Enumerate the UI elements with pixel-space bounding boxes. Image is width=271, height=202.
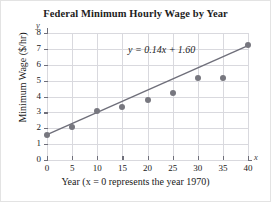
data-point bbox=[145, 97, 151, 103]
y-tick-label: 3 bbox=[29, 106, 41, 116]
y-tick bbox=[44, 128, 48, 129]
trendline-equation-label: y = 0.14x + 1.60 bbox=[128, 44, 195, 55]
y-tick-label: 7 bbox=[29, 43, 41, 53]
y-tick bbox=[44, 144, 48, 145]
y-tick-label: 4 bbox=[29, 91, 41, 101]
x-tick-label: 20 bbox=[138, 163, 158, 173]
chart-figure: Federal Minimum Hourly Wage by Year y x … bbox=[0, 0, 271, 202]
x-tick bbox=[148, 156, 149, 160]
data-point bbox=[69, 124, 75, 130]
y-axis-label: Minimum Wage ($/hr) bbox=[17, 18, 28, 138]
x-tick-label: 10 bbox=[87, 163, 107, 173]
x-tick-label: 0 bbox=[37, 163, 57, 173]
y-tick bbox=[44, 97, 48, 98]
x-tick bbox=[72, 156, 73, 160]
x-tick bbox=[198, 156, 199, 160]
data-point bbox=[245, 42, 251, 48]
y-tick bbox=[44, 81, 48, 82]
y-tick-label: 8 bbox=[29, 27, 41, 37]
x-tick bbox=[173, 156, 174, 160]
chart-title: Federal Minimum Hourly Wage by Year bbox=[0, 8, 271, 19]
gridline-vertical bbox=[248, 33, 249, 160]
x-axis-variable-name: x bbox=[254, 152, 258, 162]
y-tick bbox=[44, 33, 48, 34]
x-tick-label: 35 bbox=[213, 163, 233, 173]
x-tick bbox=[223, 156, 224, 160]
data-point bbox=[170, 90, 176, 96]
x-tick-label: 25 bbox=[163, 163, 183, 173]
x-tick bbox=[248, 156, 249, 160]
x-tick-label: 15 bbox=[112, 163, 132, 173]
x-axis-label: Year (x = 0 represents the year 1970) bbox=[0, 176, 271, 187]
x-tick bbox=[97, 156, 98, 160]
x-tick-label: 30 bbox=[188, 163, 208, 173]
y-tick-label: 5 bbox=[29, 75, 41, 85]
y-tick bbox=[44, 160, 48, 161]
y-tick-label: 2 bbox=[29, 122, 41, 132]
data-point bbox=[44, 132, 50, 138]
y-tick bbox=[44, 65, 48, 66]
y-tick-label: 1 bbox=[29, 138, 41, 148]
y-tick-label: 0 bbox=[29, 154, 41, 164]
x-tick-label: 5 bbox=[62, 163, 82, 173]
gridline-horizontal bbox=[47, 160, 248, 161]
y-tick-label: 6 bbox=[29, 59, 41, 69]
data-point bbox=[195, 75, 201, 81]
y-tick bbox=[44, 112, 48, 113]
y-tick bbox=[44, 49, 48, 50]
x-tick bbox=[122, 156, 123, 160]
x-tick-label: 40 bbox=[238, 163, 258, 173]
